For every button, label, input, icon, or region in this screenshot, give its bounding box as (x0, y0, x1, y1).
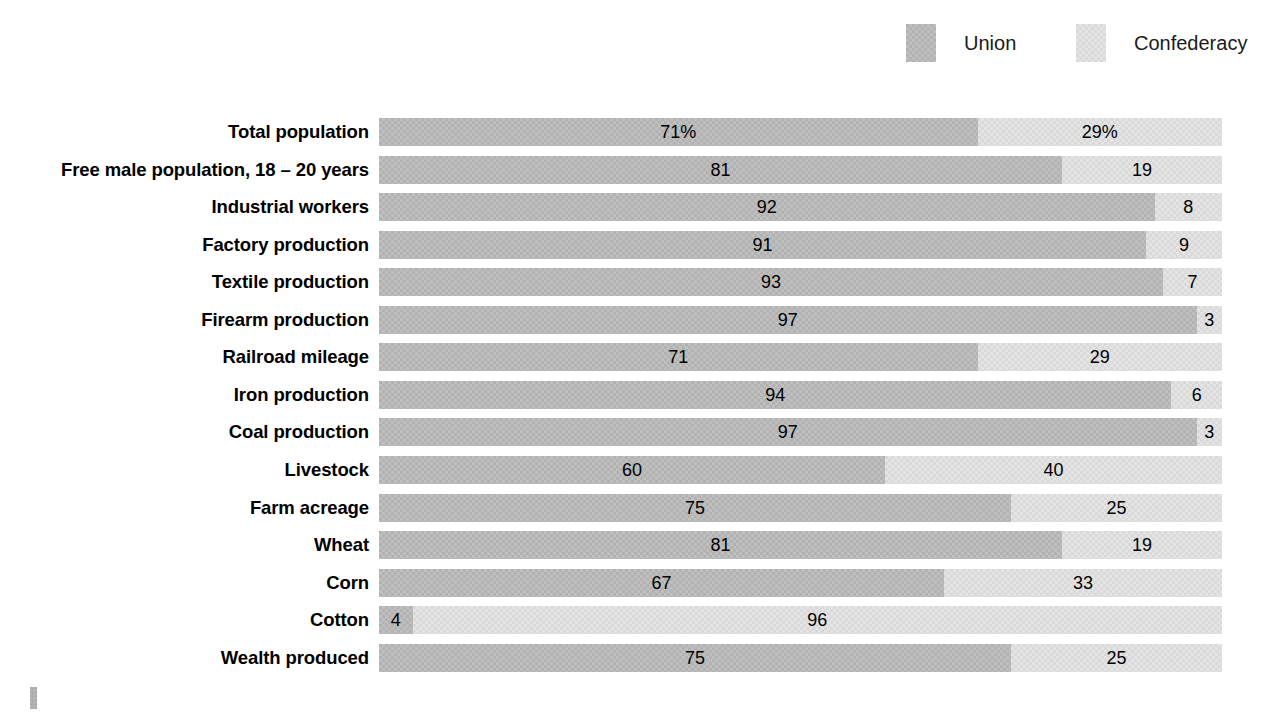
chart-segment-value-union: 60 (379, 456, 885, 484)
chart-segment-union[interactable]: 91 (379, 231, 1146, 259)
chart-segment-value-union: 93 (379, 268, 1163, 296)
chart-segment-value-union: 91 (379, 231, 1146, 259)
chart-segment-value-confederacy: 25 (1011, 494, 1222, 522)
chart-segment-value-union: 75 (379, 644, 1011, 672)
chart-segment-union[interactable]: 71% (379, 118, 978, 146)
chart-segment-confederacy[interactable]: 40 (885, 456, 1222, 484)
chart-segment-confederacy[interactable]: 3 (1197, 306, 1222, 334)
chart-bar: 71%29% (379, 118, 1222, 146)
chart-segment-confederacy[interactable]: 9 (1146, 231, 1222, 259)
chart-segment-union[interactable]: 94 (379, 381, 1171, 409)
chart-row: Textile production937 (0, 268, 1267, 296)
chart-segment-union[interactable]: 81 (379, 531, 1062, 559)
chart-segment-union[interactable]: 75 (379, 494, 1011, 522)
chart-row-label: Coal production (229, 418, 369, 446)
chart-bar: 937 (379, 268, 1222, 296)
chart-segment-value-confederacy: 8 (1155, 193, 1222, 221)
chart-row: Coal production973 (0, 418, 1267, 446)
chart-bar: 7129 (379, 343, 1222, 371)
chart-segment-confederacy[interactable]: 96 (413, 606, 1222, 634)
chart-segment-value-union: 97 (379, 418, 1197, 446)
chart-segment-confederacy[interactable]: 3 (1197, 418, 1222, 446)
chart-segment-confederacy[interactable]: 19 (1062, 156, 1222, 184)
chart-segment-union[interactable]: 75 (379, 644, 1011, 672)
chart-segment-union[interactable]: 4 (379, 606, 413, 634)
chart-segment-confederacy[interactable]: 33 (944, 569, 1222, 597)
chart-row: Farm acreage7525 (0, 494, 1267, 522)
chart-row-label: Total population (228, 118, 369, 146)
chart-bar: 928 (379, 193, 1222, 221)
chart-row-label: Free male population, 18 – 20 years (61, 156, 369, 184)
chart-row-label: Wealth produced (221, 644, 369, 672)
chart-bar: 946 (379, 381, 1222, 409)
chart-row: Total population71%29% (0, 118, 1267, 146)
chart-segment-confederacy[interactable]: 6 (1171, 381, 1222, 409)
chart-segment-value-union: 71 (379, 343, 978, 371)
chart-bar: 973 (379, 418, 1222, 446)
chart-segment-value-union: 81 (379, 156, 1062, 184)
chart-segment-confederacy[interactable]: 25 (1011, 494, 1222, 522)
chart-segment-confederacy[interactable]: 19 (1062, 531, 1222, 559)
chart-segment-value-confederacy: 29 (978, 343, 1222, 371)
chart-row-label: Firearm production (201, 306, 369, 334)
chart-row: Cotton496 (0, 606, 1267, 634)
chart-segment-value-confederacy: 29% (978, 118, 1222, 146)
chart-segment-union[interactable]: 93 (379, 268, 1163, 296)
chart-row-label: Livestock (285, 456, 369, 484)
chart-row: Railroad mileage7129 (0, 343, 1267, 371)
chart-row: Firearm production973 (0, 306, 1267, 334)
chart-row: Free male population, 18 – 20 years8119 (0, 156, 1267, 184)
chart-row-label: Corn (326, 569, 369, 597)
chart-segment-union[interactable]: 92 (379, 193, 1155, 221)
chart-segment-union[interactable]: 81 (379, 156, 1062, 184)
chart-bar: 8119 (379, 531, 1222, 559)
chart-row: Wealth produced7525 (0, 644, 1267, 672)
chart-bar: 973 (379, 306, 1222, 334)
chart-row-label: Iron production (234, 381, 369, 409)
chart-segment-value-union: 4 (379, 606, 413, 634)
chart-segment-confederacy[interactable]: 29% (978, 118, 1222, 146)
chart-segment-confederacy[interactable]: 7 (1163, 268, 1222, 296)
chart-segment-value-union: 67 (379, 569, 944, 597)
chart-bar: 496 (379, 606, 1222, 634)
chart-segment-value-confederacy: 40 (885, 456, 1222, 484)
stacked-bar-chart: Total population71%29%Free male populati… (0, 0, 1267, 712)
chart-segment-value-confederacy: 9 (1146, 231, 1222, 259)
chart-segment-value-confederacy: 25 (1011, 644, 1222, 672)
chart-segment-value-union: 75 (379, 494, 1011, 522)
chart-bar: 919 (379, 231, 1222, 259)
chart-segment-value-union: 92 (379, 193, 1155, 221)
chart-row: Livestock6040 (0, 456, 1267, 484)
chart-bar: 7525 (379, 494, 1222, 522)
chart-row-label: Textile production (212, 268, 369, 296)
chart-segment-confederacy[interactable]: 25 (1011, 644, 1222, 672)
chart-segment-confederacy[interactable]: 29 (978, 343, 1222, 371)
chart-segment-value-confederacy: 19 (1062, 156, 1222, 184)
scan-artifact-mark (30, 687, 37, 709)
chart-row-label: Railroad mileage (223, 343, 369, 371)
chart-segment-value-confederacy: 3 (1197, 418, 1222, 446)
chart-row-label: Wheat (314, 531, 369, 559)
chart-segment-value-confederacy: 19 (1062, 531, 1222, 559)
chart-row-label: Industrial workers (211, 193, 369, 221)
chart-row: Corn6733 (0, 569, 1267, 597)
chart-segment-union[interactable]: 71 (379, 343, 978, 371)
chart-row-label: Factory production (202, 231, 369, 259)
chart-segment-value-union: 71% (379, 118, 978, 146)
chart-segment-union[interactable]: 67 (379, 569, 944, 597)
chart-segment-union[interactable]: 97 (379, 306, 1197, 334)
chart-row-label: Farm acreage (250, 494, 369, 522)
chart-bar: 6040 (379, 456, 1222, 484)
chart-row: Factory production919 (0, 231, 1267, 259)
chart-segment-confederacy[interactable]: 8 (1155, 193, 1222, 221)
chart-row: Industrial workers928 (0, 193, 1267, 221)
chart-row-label: Cotton (310, 606, 369, 634)
chart-segment-union[interactable]: 60 (379, 456, 885, 484)
chart-segment-value-confederacy: 7 (1163, 268, 1222, 296)
chart-segment-value-confederacy: 96 (413, 606, 1222, 634)
chart-segment-value-union: 97 (379, 306, 1197, 334)
chart-segment-value-union: 94 (379, 381, 1171, 409)
chart-segment-value-confederacy: 6 (1171, 381, 1222, 409)
chart-segment-union[interactable]: 97 (379, 418, 1197, 446)
chart-bar: 6733 (379, 569, 1222, 597)
